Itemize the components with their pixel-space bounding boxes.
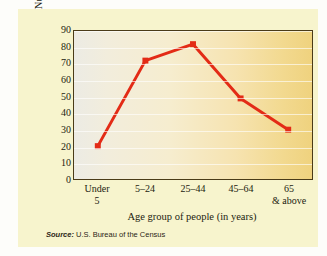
x-tick-label-line1: 45–64 <box>229 183 254 194</box>
y-tick-label: 80 <box>61 42 71 52</box>
x-tick-label-line1: 65 <box>284 183 294 194</box>
x-tick-label: 65& above <box>261 183 317 206</box>
y-axis-ticks: 0102030405060708090 <box>51 30 71 180</box>
y-tick-label: 10 <box>61 158 71 168</box>
source-note: Source: U.S. Bureau of the Census <box>46 230 165 239</box>
gridline <box>74 114 312 115</box>
plot-block: Number of people (in millions) 010203040… <box>73 30 313 180</box>
data-point-marker <box>190 41 196 47</box>
gridline <box>74 131 312 132</box>
gridline <box>74 164 312 165</box>
y-axis-label: Number of people (in millions) <box>33 0 53 38</box>
source-keyword: Source: <box>46 230 74 239</box>
x-tick-label-line2: 5 <box>69 195 125 207</box>
y-tick-label: 50 <box>61 92 71 102</box>
y-tick-label: 90 <box>61 25 71 35</box>
x-tick-label-line1: 5–24 <box>135 183 155 194</box>
gridline <box>74 48 312 49</box>
y-tick-label: 60 <box>61 75 71 85</box>
y-tick-label: 20 <box>61 142 71 152</box>
data-series-line <box>74 31 312 179</box>
x-axis-ticks: Under55–2425–4445–6465& above <box>73 183 313 209</box>
gridline <box>74 98 312 99</box>
chart-page: Number of people (in millions) 010203040… <box>0 0 327 256</box>
gridline <box>74 64 312 65</box>
source-text: U.S. Bureau of the Census <box>76 230 165 239</box>
x-axis-label: Age group of people (in years) <box>58 211 326 222</box>
chart-card: Number of people (in millions) 010203040… <box>18 9 318 247</box>
plot-area <box>73 30 313 180</box>
gridline <box>74 148 312 149</box>
data-point-marker <box>142 58 148 64</box>
x-tick-label-line1: 25–44 <box>181 183 206 194</box>
x-tick-label-line1: Under <box>85 183 110 194</box>
gridline <box>74 31 312 32</box>
gridline <box>74 81 312 82</box>
y-tick-label: 30 <box>61 125 71 135</box>
y-tick-label: 70 <box>61 58 71 68</box>
y-tick-label: 40 <box>61 108 71 118</box>
y-axis-label-line1: Number of people <box>33 0 44 9</box>
x-tick-label-line2: & above <box>261 195 317 207</box>
